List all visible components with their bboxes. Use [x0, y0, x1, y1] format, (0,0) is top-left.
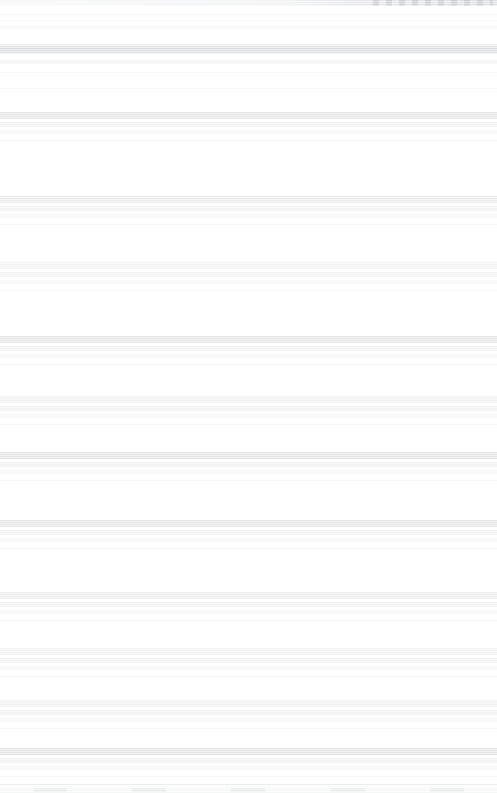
list-item-tertiary-text [0, 470, 497, 474]
bottom-nav-bar[interactable] [0, 784, 497, 793]
list-item-divider [0, 676, 497, 677]
list-item-tertiary-text [0, 718, 497, 722]
list-item[interactable] [0, 520, 497, 550]
list-item-primary-text [0, 196, 497, 203]
bottom-nav-tab-label [430, 788, 431, 789]
list-item[interactable] [0, 112, 497, 142]
list-item-divider [0, 224, 497, 225]
bottom-nav-tab-label [231, 788, 232, 789]
list-item-primary-text [0, 520, 497, 527]
list-item-secondary-text [0, 710, 497, 715]
list-item-divider [0, 776, 497, 777]
list-item[interactable] [0, 700, 497, 730]
list-item-tertiary-text [0, 214, 497, 218]
app-header [0, 44, 497, 54]
bottom-nav-tab-3[interactable] [231, 788, 265, 792]
list-item[interactable] [0, 648, 497, 678]
list-item-secondary-text [0, 658, 497, 663]
list-item-secondary-text [0, 346, 497, 351]
list-item-primary-text [0, 262, 497, 269]
status-bar [0, 0, 497, 6]
content-hairline-2 [0, 88, 497, 89]
list-item-secondary-text [0, 602, 497, 607]
list-item[interactable] [0, 262, 497, 292]
list-item-primary-text [0, 452, 497, 459]
list-item[interactable] [0, 396, 497, 426]
list-item-divider [0, 364, 497, 365]
list-item[interactable] [0, 196, 497, 226]
page-title [0, 44, 1, 45]
unreadable-icon [132, 788, 133, 789]
content-hairline-1 [0, 72, 497, 73]
bottom-nav-tab-4[interactable] [331, 788, 365, 792]
header-hairline-1 [0, 14, 497, 15]
list-item-secondary-text [0, 406, 497, 411]
unreadable-icon [430, 788, 431, 789]
list-item-primary-text [0, 336, 497, 343]
list-item[interactable] [0, 592, 497, 622]
list-item-tertiary-text [0, 610, 497, 614]
bottom-nav-tab-label [331, 788, 332, 789]
list-item-tertiary-text [0, 666, 497, 670]
header-hairline-2 [0, 20, 497, 21]
list-item[interactable] [0, 336, 497, 366]
list-item-primary-text [0, 592, 497, 599]
list-item-divider [0, 728, 497, 729]
status-bar-text [0, 0, 1, 1]
list-item-secondary-text [0, 462, 497, 467]
list-item-tertiary-text [0, 538, 497, 542]
list-item-primary-text [0, 112, 497, 119]
bottom-nav-tab-label [132, 788, 133, 789]
header-underlay [0, 26, 497, 29]
list-item-tertiary-text [0, 354, 497, 358]
list-item-divider [0, 480, 497, 481]
bottom-nav-tab-2[interactable] [132, 788, 166, 792]
list-item-divider [0, 424, 497, 425]
list-item-tertiary-text [0, 414, 497, 418]
app-screen [0, 0, 497, 793]
list-item-divider [0, 548, 497, 549]
unreadable-icon [331, 788, 332, 789]
list-item-primary-text [0, 748, 497, 755]
list-item-tertiary-text [0, 130, 497, 134]
list-item-divider [0, 140, 497, 141]
bottom-nav-tab-label [33, 788, 34, 789]
list-item-secondary-text [0, 530, 497, 535]
bottom-nav-tab-5[interactable] [430, 788, 464, 792]
list-item-secondary-text [0, 272, 497, 277]
list-item-primary-text [0, 648, 497, 655]
list-item[interactable] [0, 748, 497, 778]
list-item-primary-text [0, 700, 497, 707]
header-shadow [0, 60, 497, 64]
unreadable-icon [231, 788, 232, 789]
list-item-divider [0, 620, 497, 621]
list-item-tertiary-text [0, 766, 497, 770]
bottom-nav-tab-1[interactable] [33, 788, 67, 792]
list-item-secondary-text [0, 206, 497, 211]
list-item-secondary-text [0, 758, 497, 763]
status-bar-indicator-cluster [373, 0, 493, 6]
list-item[interactable] [0, 452, 497, 482]
page-subtitle [0, 44, 1, 45]
unreadable-icon [33, 788, 34, 789]
list-item-divider [0, 290, 497, 291]
list-item-secondary-text [0, 122, 497, 127]
list-item-tertiary-text [0, 280, 497, 284]
list-item-primary-text [0, 396, 497, 403]
